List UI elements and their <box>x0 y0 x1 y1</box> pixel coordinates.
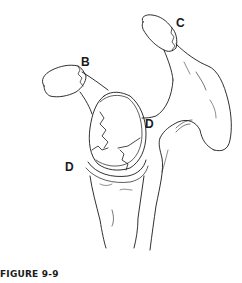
label-c: C <box>176 17 185 29</box>
label-d-right: D <box>145 118 154 130</box>
label-d-left: D <box>65 161 74 173</box>
label-b: B <box>81 56 90 68</box>
figure-caption: FIGURE 9-9 <box>0 270 59 279</box>
scapula-drawing <box>0 0 242 283</box>
figure-illustration: B C D D <box>0 0 242 283</box>
